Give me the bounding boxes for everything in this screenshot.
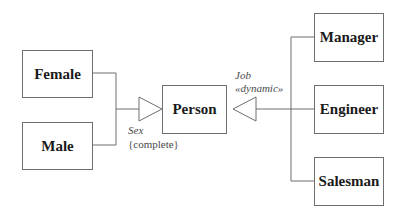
class-name: Person [172, 101, 216, 118]
job-set-stereotype: «dynamic» [235, 82, 283, 94]
sex-set-name: Sex [128, 124, 143, 136]
sex-generalization-arrow-icon [139, 97, 162, 121]
class-female[interactable]: Female [22, 50, 93, 98]
job-generalization-arrow-icon [233, 97, 256, 121]
class-name: Engineer [320, 101, 378, 118]
job-set-name: Job [235, 69, 251, 81]
class-salesman[interactable]: Salesman [314, 157, 384, 206]
sex-set-constraint: {complete} [128, 138, 179, 150]
class-manager[interactable]: Manager [314, 13, 384, 62]
class-engineer[interactable]: Engineer [314, 85, 384, 134]
class-male[interactable]: Male [22, 122, 93, 170]
class-name: Salesman [319, 173, 380, 190]
class-name: Manager [320, 29, 378, 46]
sex-branch-line [92, 73, 116, 145]
class-name: Male [41, 138, 73, 155]
class-person[interactable]: Person [162, 85, 227, 134]
class-name: Female [34, 66, 81, 83]
